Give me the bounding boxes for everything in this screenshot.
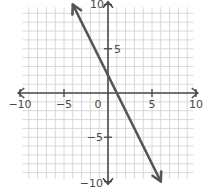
axes xyxy=(18,2,198,184)
y-tick-label: −5 xyxy=(87,131,103,144)
y-tick-label: −10 xyxy=(80,177,103,190)
x-tick-label: 5 xyxy=(149,98,156,111)
y-tick-label: 10 xyxy=(90,0,104,11)
x-tick-label: 10 xyxy=(189,98,203,111)
x-tick-label: 0 xyxy=(95,98,102,111)
coordinate-plane: −10−50510−10−5510 xyxy=(0,0,206,194)
x-tick-label: −10 xyxy=(8,98,31,111)
x-tick-label: −5 xyxy=(56,98,72,111)
y-tick-label: 5 xyxy=(114,43,121,56)
